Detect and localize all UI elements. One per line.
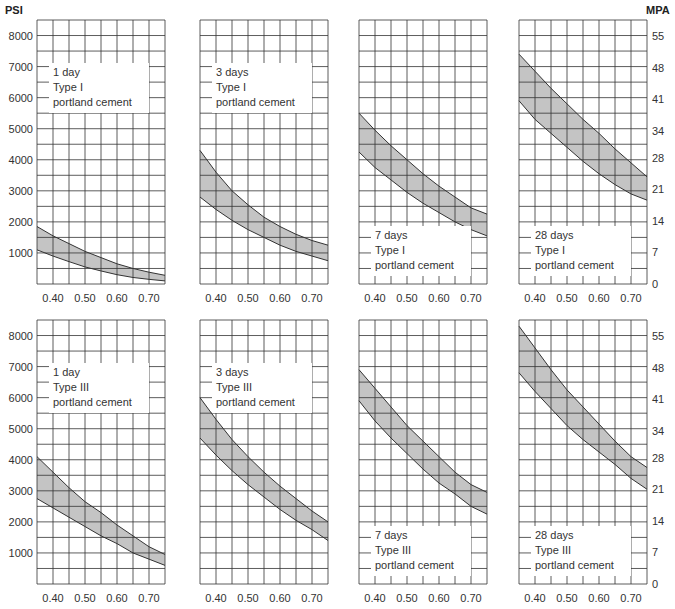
panel-7-x-tick: 0.60 xyxy=(428,592,449,604)
panel-3-label-line: portland cement xyxy=(375,259,454,271)
panel-7-x-tick: 0.40 xyxy=(364,592,385,604)
panel-5-x-tick: 0.70 xyxy=(138,592,159,604)
psi-tick-row2: 6000 xyxy=(9,392,33,404)
panel-3-x-tick: 0.50 xyxy=(396,292,417,304)
mpa-tick-row1: 48 xyxy=(652,62,664,74)
mpa-tick-row2: 7 xyxy=(652,546,658,558)
psi-tick-row2: 2000 xyxy=(9,516,33,528)
panel-5-label-line: portland cement xyxy=(53,396,132,408)
mpa-tick-row1: 21 xyxy=(652,183,664,195)
panel-1-x-tick: 0.60 xyxy=(106,292,127,304)
mpa-tick-row1: 34 xyxy=(652,125,664,137)
mpa-tick-row1: 14 xyxy=(652,215,664,227)
mpa-tick-row1: 0 xyxy=(652,278,658,290)
psi-tick-row1: 3000 xyxy=(9,185,33,197)
psi-tick-row1: 8000 xyxy=(9,30,33,42)
mpa-tick-row2: 34 xyxy=(652,425,664,437)
panel-3-label-line: Type I xyxy=(375,244,405,256)
panel-4-label-line: 28 days xyxy=(535,229,574,241)
panel-2-x-tick: 0.60 xyxy=(269,292,290,304)
panel-1-x-tick: 0.50 xyxy=(74,292,95,304)
psi-tick-row1: 6000 xyxy=(9,92,33,104)
mpa-tick-row2: 0 xyxy=(652,578,658,590)
panel-4-x-tick: 0.50 xyxy=(556,292,577,304)
panel-8-x-tick: 0.70 xyxy=(620,592,641,604)
panel-5-x-tick: 0.60 xyxy=(106,592,127,604)
panel-6-x-tick: 0.60 xyxy=(269,592,290,604)
panel-8-label-line: Type III xyxy=(535,544,571,556)
panel-1-label-line: Type I xyxy=(53,81,83,93)
panel-6-label-line: Type III xyxy=(216,381,252,393)
panel-6-label-line: portland cement xyxy=(216,396,295,408)
panel-6-x-tick: 0.40 xyxy=(205,592,226,604)
panel-2-x-tick: 0.50 xyxy=(237,292,258,304)
panel-4-label-line: portland cement xyxy=(535,259,614,271)
psi-tick-row1: 5000 xyxy=(9,123,33,135)
psi-tick-row2: 3000 xyxy=(9,485,33,497)
panel-8-x-tick: 0.50 xyxy=(556,592,577,604)
panel-2-x-tick: 0.70 xyxy=(301,292,322,304)
panel-3-label-line: 7 days xyxy=(375,229,408,241)
panel-6-x-tick: 0.50 xyxy=(237,592,258,604)
panel-2-label-line: portland cement xyxy=(216,96,295,108)
panel-6-x-tick: 0.70 xyxy=(301,592,322,604)
panel-2-x-tick: 0.40 xyxy=(205,292,226,304)
psi-tick-row2: 1000 xyxy=(9,547,33,559)
mpa-tick-row1: 55 xyxy=(652,30,664,42)
panel-4-x-tick: 0.60 xyxy=(588,292,609,304)
panel-2-label-line: Type I xyxy=(216,81,246,93)
psi-tick-row1: 4000 xyxy=(9,154,33,166)
psi-tick-row2: 4000 xyxy=(9,454,33,466)
panel-7-label-line: 7 days xyxy=(375,529,408,541)
psi-tick-row1: 7000 xyxy=(9,61,33,73)
panel-3-x-tick: 0.60 xyxy=(428,292,449,304)
mpa-axis-unit: MPA xyxy=(646,4,670,16)
panel-5-label-line: Type III xyxy=(53,381,89,393)
mpa-tick-row1: 41 xyxy=(652,93,664,105)
panel-5-x-tick: 0.50 xyxy=(74,592,95,604)
psi-tick-row2: 8000 xyxy=(9,330,33,342)
mpa-tick-row2: 55 xyxy=(652,330,664,342)
panel-8-x-tick: 0.40 xyxy=(524,592,545,604)
mpa-tick-row1: 28 xyxy=(652,152,664,164)
panel-7-label-line: Type III xyxy=(375,544,411,556)
panel-2-label-line: 3 days xyxy=(216,66,249,78)
mpa-tick-row2: 28 xyxy=(652,452,664,464)
mpa-tick-row2: 14 xyxy=(652,515,664,527)
panel-1-x-tick: 0.40 xyxy=(42,292,63,304)
panel-1-x-tick: 0.70 xyxy=(138,292,159,304)
panel-3-x-tick: 0.70 xyxy=(460,292,481,304)
mpa-tick-row2: 41 xyxy=(652,393,664,405)
psi-tick-row1: 1000 xyxy=(9,247,33,259)
panel-5-x-tick: 0.40 xyxy=(42,592,63,604)
panel-8-x-tick: 0.60 xyxy=(588,592,609,604)
psi-tick-row2: 7000 xyxy=(9,361,33,373)
panel-1-label-line: 1 day xyxy=(53,66,80,78)
panel-7-x-tick: 0.50 xyxy=(396,592,417,604)
psi-tick-row1: 2000 xyxy=(9,216,33,228)
panel-6-label-line: 3 days xyxy=(216,366,249,378)
mpa-tick-row2: 48 xyxy=(652,362,664,374)
strength-vs-wc-ratio-chart: 1 dayType Iportland cement0.400.500.600.… xyxy=(0,0,675,609)
mpa-tick-row2: 21 xyxy=(652,483,664,495)
psi-axis-unit: PSI xyxy=(5,4,23,16)
panel-4-x-tick: 0.70 xyxy=(620,292,641,304)
panel-4-label-line: Type I xyxy=(535,244,565,256)
panel-7-x-tick: 0.70 xyxy=(460,592,481,604)
panel-8-label-line: 28 days xyxy=(535,529,574,541)
panel-5-label-line: 1 day xyxy=(53,366,80,378)
mpa-tick-row1: 7 xyxy=(652,246,658,258)
psi-tick-row2: 5000 xyxy=(9,423,33,435)
panel-3-x-tick: 0.40 xyxy=(364,292,385,304)
panel-8-label-line: portland cement xyxy=(535,559,614,571)
panel-1-label-line: portland cement xyxy=(53,96,132,108)
panel-7-label-line: portland cement xyxy=(375,559,454,571)
panel-4-x-tick: 0.40 xyxy=(524,292,545,304)
